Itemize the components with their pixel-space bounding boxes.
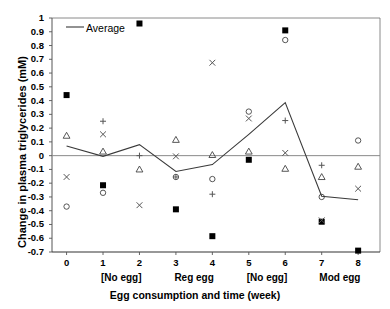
x-axis-group-label: [No egg] bbox=[232, 272, 302, 283]
y-axis-tick-label: 0.9 bbox=[14, 26, 44, 37]
x-axis-tick-label: 4 bbox=[202, 257, 222, 268]
y-axis-tick-label: -0.2 bbox=[14, 177, 44, 188]
y-axis-tick-label: 0.5 bbox=[14, 81, 44, 92]
x-axis-tick-label: 5 bbox=[239, 257, 259, 268]
x-axis-tick-label: 8 bbox=[348, 257, 368, 268]
x-axis-group-label: [No egg] bbox=[86, 272, 156, 283]
y-axis-tick-label: -0.3 bbox=[14, 191, 44, 202]
x-axis-tick-label: 1 bbox=[93, 257, 113, 268]
data-series-1 bbox=[64, 21, 362, 254]
x-axis-tick-label: 3 bbox=[166, 257, 186, 268]
x-axis-group-label: Mod egg bbox=[305, 272, 375, 283]
y-axis-tick-label: -0.5 bbox=[14, 218, 44, 229]
y-axis-tick-label: -0.4 bbox=[14, 205, 44, 216]
y-axis-tick-label: 0.6 bbox=[14, 67, 44, 78]
x-axis-tick-label: 0 bbox=[57, 257, 77, 268]
y-axis-tick-label: 0.3 bbox=[14, 108, 44, 119]
x-axis-tick-label: 6 bbox=[275, 257, 295, 268]
y-axis-tick-label: -0.6 bbox=[14, 232, 44, 243]
y-axis-tick-label: 0.1 bbox=[14, 136, 44, 147]
y-axis-tick-label: -0.1 bbox=[14, 163, 44, 174]
y-axis-tick-label: 0.7 bbox=[14, 53, 44, 64]
y-axis-tick-label: 0 bbox=[14, 150, 44, 161]
chart-figure: Change in plasma triglycerides (mM) Egg … bbox=[0, 0, 390, 309]
x-axis-tick-label: 2 bbox=[129, 257, 149, 268]
y-axis-tick-label: 0.4 bbox=[14, 95, 44, 106]
y-axis-tick-label: 0.2 bbox=[14, 122, 44, 133]
x-axis-tick-label: 7 bbox=[312, 257, 332, 268]
y-axis-tick-label: 0.8 bbox=[14, 40, 44, 51]
data-series-4 bbox=[64, 60, 361, 223]
x-axis-group-label: Reg egg bbox=[159, 272, 229, 283]
y-axis-tick-label: 1 bbox=[14, 12, 44, 23]
y-axis-tick-label: -0.7 bbox=[14, 246, 44, 257]
